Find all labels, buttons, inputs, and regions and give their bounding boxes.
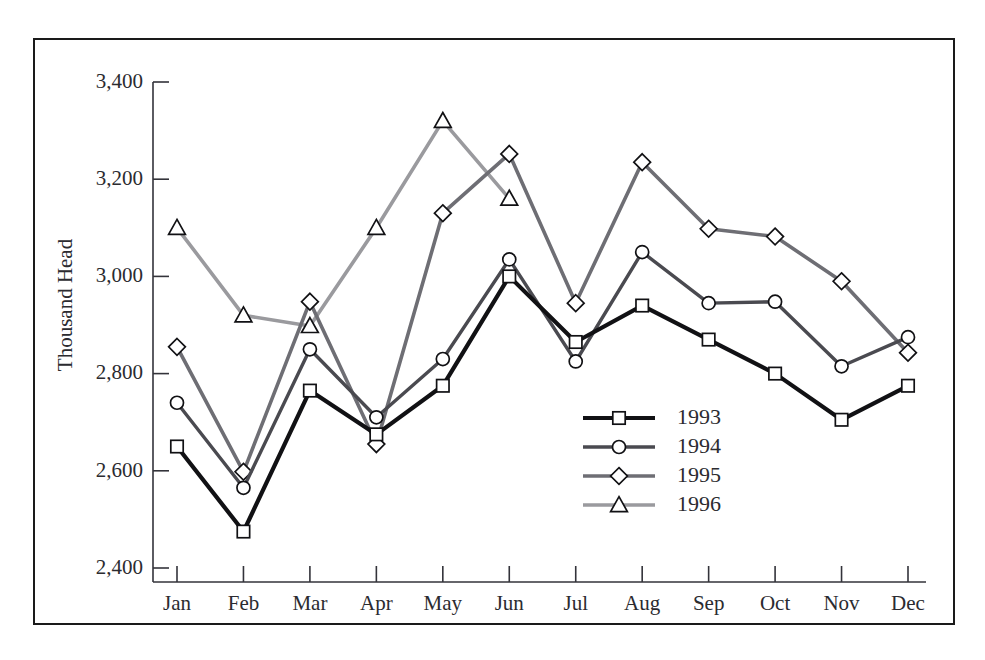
y-tick-label: 2,800 xyxy=(96,360,143,384)
diamond-marker xyxy=(611,468,628,485)
x-tick-label: Sep xyxy=(693,591,725,615)
x-tick-label: May xyxy=(424,591,463,615)
square-marker xyxy=(769,367,781,379)
x-tick-label: Dec xyxy=(891,591,925,615)
circle-marker xyxy=(901,331,914,344)
chart-figure: Thousand Head 2,4002,6002,8003,0003,2003… xyxy=(0,0,985,660)
triangle-marker xyxy=(169,219,186,234)
diamond-marker xyxy=(302,293,319,310)
y-tick-label: 3,200 xyxy=(96,166,143,190)
legend-label-1996: 1996 xyxy=(677,491,721,516)
square-marker xyxy=(702,333,714,345)
diamond-marker xyxy=(567,295,584,312)
axes xyxy=(153,82,926,582)
y-tick-label: 3,400 xyxy=(96,69,143,93)
circle-marker xyxy=(303,343,316,356)
square-marker xyxy=(503,270,515,282)
x-tick-label: Mar xyxy=(292,591,327,615)
series-1996 xyxy=(169,113,518,333)
legend-item-1996[interactable]: 1996 xyxy=(583,491,721,516)
circle-marker xyxy=(436,353,449,366)
series-line-1996 xyxy=(177,121,509,326)
series-line-1993 xyxy=(177,276,908,531)
legend-label-1994: 1994 xyxy=(677,433,721,458)
data-series-group xyxy=(169,113,917,538)
legend: 1993199419951996 xyxy=(583,404,721,516)
circle-marker xyxy=(503,253,516,266)
legend-item-1993[interactable]: 1993 xyxy=(583,404,721,429)
y-tick-label: 3,000 xyxy=(96,263,143,287)
circle-marker xyxy=(170,396,183,409)
circle-marker xyxy=(702,297,715,310)
square-marker xyxy=(613,412,625,424)
legend-label-1995: 1995 xyxy=(677,462,721,487)
series-line-1994 xyxy=(177,252,908,488)
circle-marker xyxy=(769,295,782,308)
circle-marker xyxy=(835,360,848,373)
x-tick-label: Oct xyxy=(760,591,790,615)
x-axis-tick-labels: JanFebMarAprMayJunJulAugSepOctNovDec xyxy=(163,591,925,615)
square-marker xyxy=(636,299,648,311)
y-axis-label-text: Thousand Head xyxy=(53,238,77,371)
y-axis-title: Thousand Head xyxy=(53,238,77,371)
circle-marker xyxy=(612,440,625,453)
circle-marker xyxy=(370,411,383,424)
circle-marker xyxy=(569,355,582,368)
y-tick-label: 2,400 xyxy=(96,555,143,579)
x-tick-label: Feb xyxy=(228,591,260,615)
x-tick-label: Aug xyxy=(624,591,661,615)
square-marker xyxy=(902,380,914,392)
triangle-marker xyxy=(434,113,451,128)
circle-marker xyxy=(636,246,649,259)
x-tick-label: Nov xyxy=(823,591,860,615)
x-tick-label: Apr xyxy=(360,591,393,615)
square-marker xyxy=(437,380,449,392)
square-marker xyxy=(370,428,382,440)
y-axis-tick-labels: 2,4002,6002,8003,0003,2003,400 xyxy=(96,69,143,579)
x-tick-label: Jun xyxy=(495,591,525,615)
circle-marker xyxy=(237,481,250,494)
diamond-marker xyxy=(169,339,186,356)
y-tick-label: 2,600 xyxy=(96,458,143,482)
legend-item-1994[interactable]: 1994 xyxy=(583,433,721,458)
square-marker xyxy=(304,384,316,396)
square-marker xyxy=(237,525,249,537)
square-marker xyxy=(835,414,847,426)
legend-item-1995[interactable]: 1995 xyxy=(583,462,721,487)
x-tick-label: Jan xyxy=(163,591,191,615)
line-chart-plot: Thousand Head 2,4002,6002,8003,0003,2003… xyxy=(0,0,985,660)
legend-label-1993: 1993 xyxy=(677,404,721,429)
square-marker xyxy=(570,336,582,348)
square-marker xyxy=(171,440,183,452)
x-tick-label: Jul xyxy=(563,591,588,615)
